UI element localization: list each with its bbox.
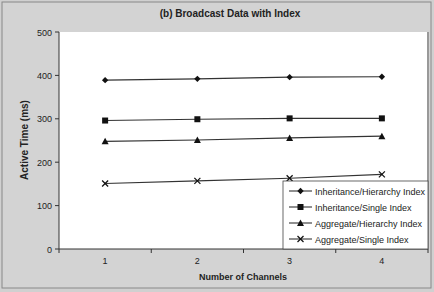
legend: Inheritance/Hierarchy IndexInheritance/S… (283, 181, 428, 249)
square-marker-icon (298, 204, 304, 210)
line-chart: (b) Broadcast Data with Index 0100200300… (0, 0, 434, 292)
y-tick-label: 500 (37, 28, 52, 38)
x-tick-label: 1 (103, 256, 108, 266)
square-marker-icon (379, 115, 385, 121)
y-tick-label: 0 (47, 245, 52, 255)
y-tick-label: 400 (37, 71, 52, 81)
y-tick-label: 100 (37, 201, 52, 211)
x-axis-label: Number of Channels (199, 272, 287, 282)
square-marker-icon (102, 118, 108, 124)
y-axis-label: Active Time (ms) (19, 100, 30, 180)
x-tick-label: 2 (195, 256, 200, 266)
x-tick-label: 4 (379, 256, 384, 266)
legend-label: Inheritance/Single Index (315, 203, 412, 213)
y-tick-label: 300 (37, 114, 52, 124)
x-tick-label: 3 (287, 256, 292, 266)
square-marker-icon (194, 116, 200, 122)
legend-label: Inheritance/Hierarchy Index (315, 187, 426, 197)
legend-label: Aggregate/Single Index (315, 235, 409, 245)
legend-label: Aggregate/Hierarchy Index (315, 219, 423, 229)
square-marker-icon (287, 115, 293, 121)
y-tick-label: 200 (37, 158, 52, 168)
chart-title: (b) Broadcast Data with Index (160, 8, 301, 19)
